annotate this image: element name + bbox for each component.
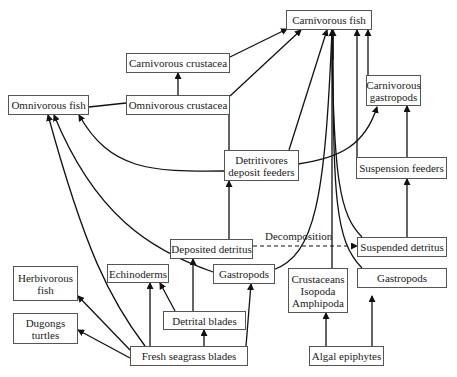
edge-fresh-gastroL <box>246 284 251 346</box>
node-dugongs-turtles: Dugongs turtles <box>13 313 78 344</box>
edge-omnicrust-omnifish <box>89 103 126 107</box>
edge-detrit-carnfish <box>289 30 327 150</box>
node-detrital-blades: Detrital blades <box>163 311 246 330</box>
node-crustaceans: Crustaceans Isopoda Amphipoda <box>288 268 348 313</box>
edge-detrit-carngastro <box>298 107 377 164</box>
edge-detblades-echino <box>160 283 175 311</box>
node-suspension-feeders: Suspension feeders <box>356 157 447 179</box>
node-fresh-seagrass: Fresh seagrass blades <box>130 346 248 366</box>
node-herbivorous-fish: Herbivorous fish <box>13 266 78 301</box>
node-suspended-detritus: Suspended detritus <box>357 237 447 257</box>
decomposition-label: Decomposition <box>265 230 332 242</box>
node-gastropods-right: Gastropods <box>357 268 447 288</box>
edge-fresh-omnifish <box>48 115 145 346</box>
node-omnivorous-crustacea: Omnivorous crustacea <box>126 95 230 115</box>
edge-carncrust-carnfish <box>230 29 287 57</box>
node-gastropods-left: Gastropods <box>213 264 275 284</box>
node-detritivores: Detritivores deposit feeders <box>224 150 299 181</box>
node-omnivorous-fish: Omnivorous fish <box>8 95 89 115</box>
node-echinoderms: Echinoderms <box>107 264 169 283</box>
edge-detrit-omnifish <box>79 115 224 171</box>
node-carnivorous-fish: Carnivorous fish <box>286 10 372 30</box>
node-carnivorous-crustacea: Carnivorous crustacea <box>126 53 230 73</box>
edge-fresh-dugongs <box>78 330 130 358</box>
node-deposited-detritus: Deposited detritus <box>170 239 253 259</box>
edge-fresh-herbfish <box>78 296 130 350</box>
node-carnivorous-gastropods: Carnivorous gastropods <box>366 75 421 106</box>
node-algal-epiphytes: Algal epiphytes <box>309 346 384 366</box>
